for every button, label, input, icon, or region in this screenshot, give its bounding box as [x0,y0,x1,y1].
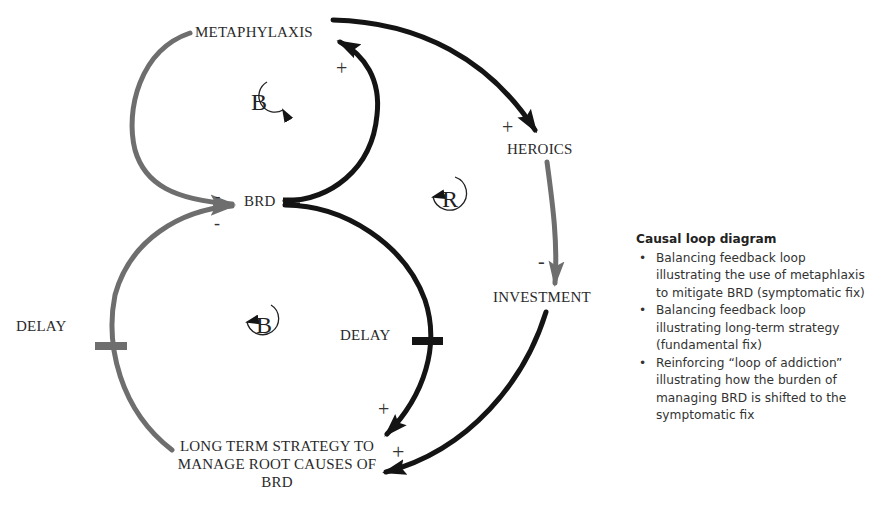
legend-list: Balancing feedback loop illustrating the… [636,250,866,425]
node-heroics: HEROICS [507,141,573,158]
delay-label-right: DELAY [340,327,390,344]
link-brd-to-metaphylaxis [285,42,378,201]
legend: Causal loop diagram Balancing feedback l… [636,231,866,425]
polarity-metaphylaxis-brd: - [215,188,220,205]
legend-item: Balancing feedback loop illustrating lon… [656,302,866,355]
svg-text:B: B [251,89,267,115]
loop-b-top: B [251,82,283,115]
legend-item: Reinforcing “loop of addiction” illustra… [656,355,866,425]
link-brd-to-strategy [285,205,431,434]
polarity-brd-strategy: + [378,398,389,420]
svg-text:R: R [442,186,458,212]
link-metaphylaxis-to-brd [132,33,232,204]
node-metaphylaxis: METAPHYLAXIS [195,24,313,41]
node-brd: BRD [244,193,275,210]
node-long-term-strategy: LONG TERM STRATEGY TO MANAGE ROOT CAUSES… [170,437,384,491]
node-investment: INVESTMENT [493,289,591,306]
delay-label-left: DELAY [16,318,66,335]
delay-marker-left [95,342,127,350]
link-heroics-to-investment [547,162,556,283]
legend-item: Balancing feedback loop illustrating the… [656,250,866,303]
delay-marker-right [412,337,443,345]
legend-title: Causal loop diagram [636,231,866,249]
loop-b-bottom: B [247,305,279,338]
polarity-metaphylaxis-heroics: + [502,116,513,138]
link-strategy-to-brd [112,206,232,450]
link-metaphylaxis-to-heroics [333,20,535,130]
link-investment-to-strategy [386,312,546,472]
polarity-strategy-brd: - [214,213,220,233]
polarity-heroics-investment: - [538,250,545,272]
svg-text:B: B [256,312,272,338]
polarity-investment-strategy: + [392,439,404,464]
loop-r: R [433,177,467,212]
polarity-brd-metaphylaxis: + [336,57,347,79]
